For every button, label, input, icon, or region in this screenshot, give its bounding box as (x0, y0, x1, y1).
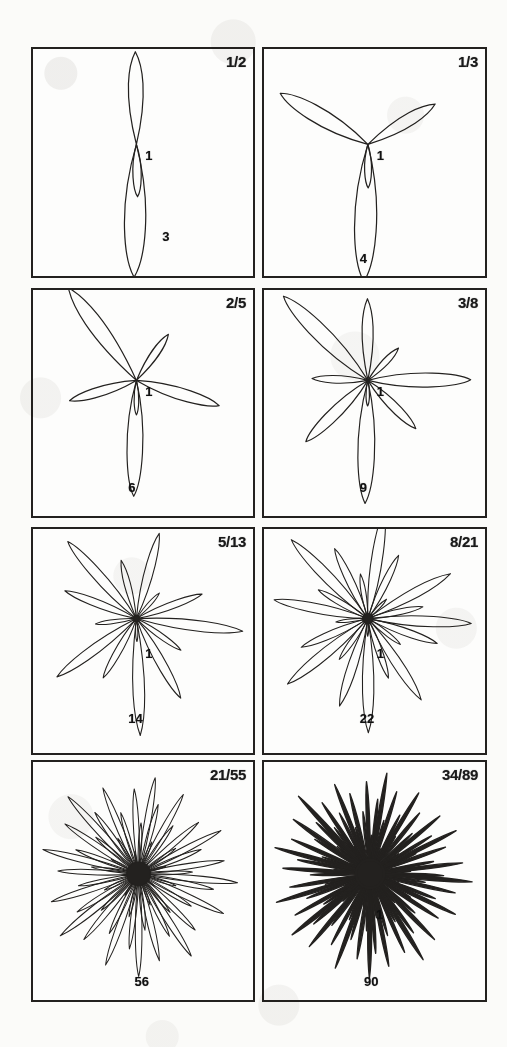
leaf-lobe (312, 376, 368, 384)
leaf-number-label: 1 (377, 148, 384, 163)
leaf-lobe (283, 296, 367, 380)
leaf-number-label: 1 (376, 907, 383, 922)
leaf-group (283, 296, 470, 503)
leaf-number-label: 1 (145, 646, 152, 661)
divergence-fraction-label: 3/8 (458, 294, 478, 311)
leaf-lobe (368, 555, 399, 618)
phyllotaxis-plot (264, 290, 485, 516)
phyllotaxis-panel-1-2: 1/213 (31, 47, 255, 278)
leaf-number-label: 1 (145, 148, 152, 163)
leaf-lobe (368, 380, 416, 428)
leaf-group (124, 52, 145, 276)
leaf-lobe (301, 619, 368, 648)
leaf-lobe (65, 591, 137, 619)
leaf-lobe (274, 599, 368, 618)
leaf-lobe (124, 144, 145, 276)
apex-core (356, 860, 384, 888)
phyllotaxis-plot (33, 762, 253, 1000)
divergence-fraction-label: 2/5 (226, 294, 246, 311)
leaf-lobe (136, 334, 168, 380)
apex-core (133, 615, 139, 621)
leaf-lobe (68, 290, 136, 380)
phyllotaxis-panel-21-55: 21/5556 (31, 760, 255, 1002)
leaf-lobe (339, 619, 367, 706)
phyllotaxis-plot (264, 529, 485, 753)
phyllotaxis-plot (33, 49, 253, 276)
leaf-lobe (368, 104, 435, 144)
leaf-lobe (136, 594, 202, 618)
divergence-fraction-label: 1/2 (226, 53, 246, 70)
phyllotaxis-figure-grid: 1/2131/3142/5163/8195/131148/2112221/555… (0, 0, 507, 1047)
leaf-number-label: 56 (135, 974, 149, 989)
phyllotaxis-plot (33, 529, 253, 753)
leaf-number-label: 1 (377, 646, 384, 661)
leaf-group (43, 778, 238, 977)
phyllotaxis-panel-1-3: 1/314 (262, 47, 487, 278)
phyllotaxis-plot (33, 290, 253, 516)
divergence-fraction-label: 1/3 (458, 53, 478, 70)
apex-core (362, 613, 373, 624)
divergence-fraction-label: 5/13 (218, 533, 246, 550)
leaf-number-label: 14 (128, 711, 142, 726)
leaf-lobe (70, 380, 137, 401)
leaf-number-label: 1 (145, 384, 152, 399)
leaf-number-label: 3 (162, 229, 169, 244)
leaf-number-label: 1 (377, 384, 384, 399)
divergence-fraction-label: 34/89 (442, 766, 478, 783)
leaf-lobe (287, 619, 367, 684)
leaf-lobe (128, 52, 143, 145)
phyllotaxis-plot (264, 762, 485, 1000)
phyllotaxis-plot (264, 49, 485, 276)
leaf-number-label: 4 (360, 251, 367, 266)
leaf-group (274, 529, 471, 733)
divergence-fraction-label: 21/55 (210, 766, 246, 783)
leaf-lobe (280, 93, 368, 144)
leaf-group (57, 533, 243, 735)
phyllotaxis-panel-5-13: 5/13114 (31, 527, 255, 755)
leaf-lobe (136, 533, 159, 618)
leaf-lobe (335, 549, 368, 619)
leaf-number-label: 90 (364, 974, 378, 989)
phyllotaxis-panel-34-89: 34/89190 (262, 760, 487, 1002)
leaf-lobe (362, 299, 373, 381)
leaf-lobe (136, 618, 242, 633)
leaf-lobe (68, 542, 137, 619)
leaf-number-label: 9 (360, 480, 367, 495)
phyllotaxis-panel-8-21: 8/21122 (262, 527, 487, 755)
leaf-lobe (368, 616, 471, 627)
leaf-group (275, 773, 472, 978)
leaf-number-label: 6 (128, 480, 135, 495)
leaf-group (280, 93, 435, 276)
leaf-lobe (136, 619, 181, 651)
phyllotaxis-panel-2-5: 2/516 (31, 288, 255, 518)
divergence-fraction-label: 8/21 (450, 533, 478, 550)
leaf-number-label: 22 (360, 711, 374, 726)
apex-core (127, 862, 151, 886)
leaf-group (68, 290, 219, 496)
phyllotaxis-panel-3-8: 3/819 (262, 288, 487, 518)
leaf-lobe (121, 560, 136, 618)
